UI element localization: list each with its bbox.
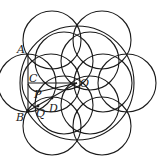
outer-circles bbox=[0, 11, 156, 155]
label-b: B bbox=[15, 111, 24, 124]
geometry-diagram: A C O P D B Q bbox=[0, 0, 161, 163]
label-a: A bbox=[16, 43, 25, 56]
outer-circle-top-left bbox=[23, 11, 81, 69]
point-d-dot bbox=[51, 97, 54, 100]
outer-circle-right bbox=[98, 54, 156, 112]
label-p: P bbox=[33, 88, 42, 101]
label-o: O bbox=[80, 77, 89, 90]
label-q: Q bbox=[36, 107, 45, 120]
label-d: D bbox=[48, 102, 58, 115]
outer-circle-top-right bbox=[73, 11, 131, 69]
point-b-dot bbox=[26, 109, 30, 113]
label-c: C bbox=[29, 72, 38, 85]
outer-circle-bottom-right bbox=[73, 97, 131, 155]
